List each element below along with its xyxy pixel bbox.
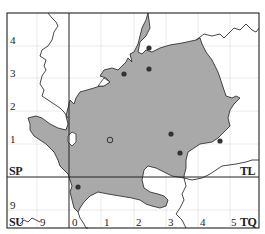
square-label-tl: TL — [240, 165, 255, 177]
square-label-su: SU — [9, 216, 23, 228]
square-label-tq: TQ — [240, 216, 256, 228]
record-dot — [177, 150, 182, 155]
x-tick-1: 1 — [104, 217, 110, 228]
x-tick-4: 4 — [200, 217, 206, 228]
record-dot — [146, 45, 151, 50]
x-tick-2: 2 — [136, 217, 142, 228]
x-tick-9: 9 — [40, 217, 46, 228]
distribution-map — [0, 0, 265, 234]
x-tick-3: 3 — [168, 217, 174, 228]
x-tick-5: 5 — [231, 217, 237, 228]
y-tick-4: 4 — [10, 35, 16, 46]
y-tick-1: 1 — [10, 134, 16, 145]
square-label-sp: SP — [9, 165, 22, 177]
y-tick-2: 2 — [10, 101, 16, 112]
y-tick-3: 3 — [10, 68, 16, 79]
x-tick-0: 0 — [72, 217, 78, 228]
record-dot — [146, 66, 151, 71]
record-dot — [217, 138, 222, 143]
record-dot — [75, 184, 80, 189]
record-dot — [121, 71, 126, 76]
record-dot — [168, 131, 173, 136]
y-tick-9: 9 — [10, 200, 16, 211]
